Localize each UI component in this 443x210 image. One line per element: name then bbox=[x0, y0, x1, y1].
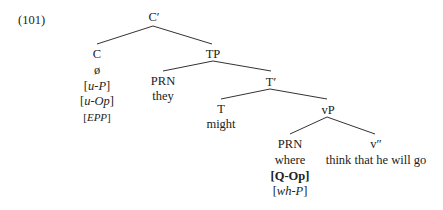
words-think-that-he-will-go: think that he will go bbox=[326, 153, 427, 167]
node-t: T bbox=[217, 102, 225, 116]
feature-u-op: [u-Op] bbox=[80, 94, 114, 108]
node-prn-where: PRN bbox=[278, 137, 302, 151]
node-c-bar: C′ bbox=[148, 10, 159, 24]
feature-u-p: [u-P] bbox=[84, 79, 110, 93]
word-where: where bbox=[275, 153, 306, 167]
node-vp: vP bbox=[321, 103, 334, 117]
feature-epp: [EPP] bbox=[83, 110, 111, 124]
feature-wh-p: [wh-P] bbox=[273, 184, 308, 198]
node-c: C bbox=[93, 47, 101, 61]
node-v-double-bar: v″ bbox=[370, 137, 381, 151]
word-might: might bbox=[206, 117, 235, 131]
node-c-null: ø bbox=[94, 63, 100, 77]
feature-q-op: [Q-Op] bbox=[271, 169, 310, 183]
node-t-bar: T′ bbox=[266, 75, 276, 89]
word-they: they bbox=[152, 89, 174, 103]
node-tp: TP bbox=[206, 47, 221, 61]
node-prn-subject: PRN bbox=[151, 74, 175, 88]
